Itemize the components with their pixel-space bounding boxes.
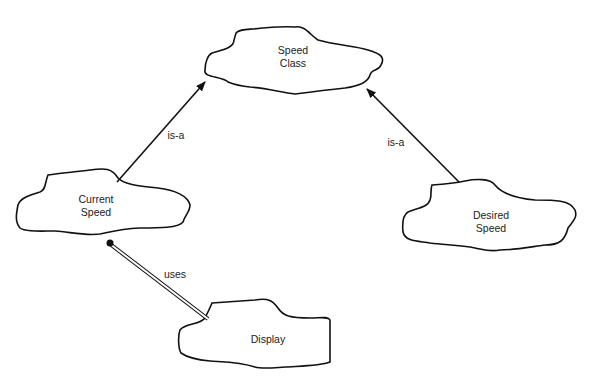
display-label: Display [251,333,285,346]
is-a-arrow-desired [367,89,459,182]
speed-class-label: Speed Class [278,44,308,70]
uses-label: uses [164,268,186,280]
is-a-label-desired: is-a [388,136,405,148]
uses-dot-icon [107,240,114,247]
is-a-arrow-current [117,82,205,182]
desired-speed-label: Desired Speed [473,209,509,235]
uses-connector [107,240,209,320]
is-a-label-current: is-a [168,129,185,141]
current-speed-label: Current Speed [78,193,113,219]
